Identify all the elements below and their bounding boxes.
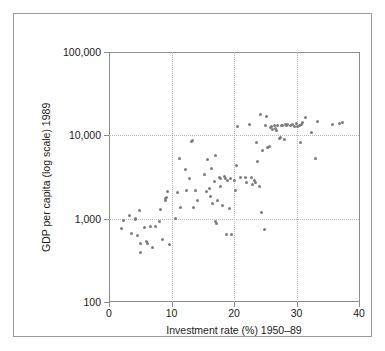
data-point xyxy=(139,242,142,245)
x-tick-label: 0 xyxy=(106,308,112,319)
data-point xyxy=(184,168,187,171)
data-point xyxy=(203,173,206,176)
data-point xyxy=(139,251,142,254)
data-point xyxy=(229,177,232,180)
data-point xyxy=(166,190,169,193)
data-point xyxy=(248,123,251,126)
data-point xyxy=(219,177,222,180)
data-point xyxy=(179,206,182,209)
data-point xyxy=(136,234,139,237)
data-point xyxy=(304,116,307,119)
data-point xyxy=(174,217,177,220)
data-point xyxy=(211,202,214,205)
data-point xyxy=(268,145,271,148)
data-point xyxy=(259,113,262,116)
data-point xyxy=(191,139,194,142)
data-point xyxy=(209,195,212,198)
figure-frame: 0102030401001,00010,000100,000 GDP per c… xyxy=(13,13,372,337)
data-point xyxy=(341,121,344,124)
y-tick-label: 100,000 xyxy=(63,47,101,58)
data-point xyxy=(225,233,228,236)
x-tick-label: 10 xyxy=(166,308,178,319)
y-tick-mark xyxy=(104,52,109,53)
y-tick-label: 1,000 xyxy=(75,213,101,224)
data-point xyxy=(228,207,231,210)
data-point xyxy=(130,232,133,235)
data-point xyxy=(255,141,258,144)
data-point xyxy=(165,196,168,199)
data-point xyxy=(210,167,213,170)
data-point xyxy=(192,206,195,209)
data-point xyxy=(236,125,239,128)
data-point xyxy=(283,138,286,141)
data-point xyxy=(188,177,191,180)
data-point xyxy=(146,242,149,245)
data-point xyxy=(149,225,152,228)
data-point xyxy=(161,238,164,241)
data-point xyxy=(185,189,188,192)
y-tick-mark xyxy=(104,302,109,303)
data-point xyxy=(260,211,263,214)
data-point xyxy=(264,124,267,127)
data-point xyxy=(208,187,211,190)
data-point xyxy=(245,181,248,184)
data-point xyxy=(151,246,154,249)
data-point xyxy=(265,115,268,118)
y-tick-label: 10,000 xyxy=(69,130,101,141)
scatter-plot-area: 0102030401001,00010,000100,000 xyxy=(109,52,359,302)
data-point xyxy=(244,176,247,179)
gridline-vertical xyxy=(234,52,235,302)
data-point xyxy=(205,190,208,193)
gridline-horizontal xyxy=(109,135,359,136)
data-point xyxy=(215,222,218,225)
data-point xyxy=(194,189,197,192)
data-point xyxy=(299,141,302,144)
data-point xyxy=(230,233,233,236)
data-point xyxy=(176,191,179,194)
data-point xyxy=(159,208,162,211)
data-point xyxy=(276,124,279,127)
data-point xyxy=(213,180,216,183)
data-point xyxy=(331,123,334,126)
x-axis-title: Investment rate (%) 1950–89 xyxy=(109,324,359,336)
data-point xyxy=(233,179,236,182)
data-point xyxy=(338,122,341,125)
y-tick-mark xyxy=(104,219,109,220)
data-point xyxy=(293,125,296,128)
x-tick-label: 40 xyxy=(353,308,365,319)
data-point xyxy=(122,219,125,222)
data-point xyxy=(263,228,266,231)
data-point xyxy=(275,129,278,132)
gridline-vertical xyxy=(297,52,298,302)
data-point xyxy=(239,176,242,179)
data-point xyxy=(221,204,224,207)
data-point xyxy=(154,225,157,228)
data-point xyxy=(316,120,319,123)
data-point xyxy=(168,243,171,246)
data-point xyxy=(138,209,141,212)
x-tick-label: 20 xyxy=(228,308,240,319)
data-point xyxy=(256,160,259,163)
data-point xyxy=(196,199,199,202)
gridline-vertical xyxy=(172,52,173,302)
data-point xyxy=(214,154,217,157)
data-point xyxy=(143,226,146,229)
data-point xyxy=(261,149,264,152)
data-point xyxy=(279,136,282,139)
y-tick-label: 100 xyxy=(83,297,101,308)
plot-border-left xyxy=(109,52,110,302)
data-point xyxy=(254,181,257,184)
data-point xyxy=(310,131,313,134)
data-point xyxy=(206,158,209,161)
data-point xyxy=(178,157,181,160)
y-axis-title: GDP per capita (log scale) 1989 xyxy=(40,102,52,251)
data-point xyxy=(219,185,222,188)
x-tick-label: 30 xyxy=(291,308,303,319)
y-tick-mark xyxy=(104,135,109,136)
data-point xyxy=(128,214,131,217)
data-point xyxy=(301,121,304,124)
data-point xyxy=(314,157,317,160)
gridline-horizontal xyxy=(109,219,359,220)
data-point xyxy=(258,185,261,188)
plot-border-right xyxy=(359,52,360,302)
